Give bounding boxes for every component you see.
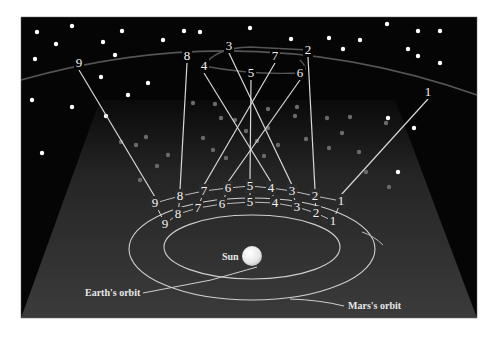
sky-position-8: 8	[184, 48, 191, 63]
mars-position-3: 3	[289, 183, 296, 198]
faint-star	[325, 116, 329, 120]
star	[416, 29, 420, 33]
star	[146, 81, 150, 85]
star	[161, 38, 165, 42]
sun	[242, 246, 262, 266]
faint-star	[364, 170, 368, 174]
earth-position-3: 3	[294, 199, 301, 214]
faint-star	[224, 156, 228, 160]
earth-position-4: 4	[272, 195, 279, 210]
faint-star	[384, 121, 388, 125]
star	[341, 47, 345, 51]
faint-star	[138, 178, 142, 182]
faint-star	[293, 114, 297, 118]
sun-label: Sun	[222, 251, 239, 262]
faint-star	[357, 150, 361, 154]
retrograde-motion-diagram: Sun Earth's orbit Mars's orbit 123456789…	[0, 0, 492, 344]
faint-star	[348, 115, 352, 119]
star	[198, 30, 202, 34]
mars-position-8: 8	[177, 188, 184, 203]
star	[358, 38, 362, 42]
earth-position-7: 7	[195, 200, 202, 215]
faint-star	[134, 143, 138, 147]
faint-star	[191, 101, 195, 105]
faint-star	[211, 148, 215, 152]
sky-position-4: 4	[201, 58, 208, 73]
mars-position-9: 9	[152, 195, 159, 210]
star	[248, 26, 252, 30]
star	[30, 98, 34, 102]
star	[35, 30, 39, 34]
sky-position-9: 9	[76, 55, 83, 70]
faint-star	[213, 102, 217, 106]
earth-position-6: 6	[219, 196, 226, 211]
star	[40, 151, 44, 155]
mars-position-4: 4	[268, 180, 275, 195]
star	[225, 12, 229, 16]
sky-position-2: 2	[305, 42, 312, 57]
earth-position-8: 8	[175, 206, 182, 221]
star	[113, 53, 117, 57]
faint-star	[387, 185, 391, 189]
mars-position-1: 1	[338, 193, 345, 208]
star	[70, 24, 74, 28]
sky-position-1: 1	[425, 84, 432, 99]
star	[126, 93, 130, 97]
earth-orbit-label: Earth's orbit	[85, 287, 141, 298]
star	[327, 36, 331, 40]
mars-position-7: 7	[201, 183, 208, 198]
faint-star	[155, 164, 159, 168]
star	[385, 22, 389, 26]
faint-star	[262, 154, 266, 158]
star	[54, 42, 58, 46]
faint-star	[340, 131, 344, 135]
star	[289, 37, 293, 41]
star	[406, 47, 410, 51]
sky-position-7: 7	[272, 48, 279, 63]
faint-star	[219, 116, 223, 120]
faint-star	[266, 107, 270, 111]
faint-star	[244, 129, 248, 133]
earth-position-5: 5	[247, 194, 254, 209]
sky-position-3: 3	[226, 38, 233, 53]
star	[182, 29, 186, 33]
mars-position-2: 2	[312, 188, 319, 203]
faint-star	[276, 143, 280, 147]
sky-position-6: 6	[297, 65, 304, 80]
earth-position-2: 2	[313, 205, 320, 220]
faint-star	[201, 136, 205, 140]
mars-orbit-label: Mars's orbit	[348, 300, 402, 311]
star	[386, 116, 390, 120]
star	[416, 54, 420, 58]
star	[101, 40, 105, 44]
faint-star	[295, 105, 299, 109]
mars-position-5: 5	[247, 178, 254, 193]
star	[396, 170, 400, 174]
faint-star	[166, 153, 170, 157]
sky-position-5: 5	[248, 65, 255, 80]
star	[33, 57, 37, 61]
faint-star	[304, 137, 308, 141]
mars-position-6: 6	[225, 180, 232, 195]
star	[99, 75, 103, 79]
diagram-canvas: Sun Earth's orbit Mars's orbit 123456789…	[0, 0, 492, 344]
faint-star	[144, 135, 148, 139]
earth-position-9: 9	[162, 216, 169, 231]
faint-star	[327, 146, 331, 150]
star	[412, 126, 416, 130]
star	[438, 61, 442, 65]
star	[120, 29, 124, 33]
star	[70, 105, 74, 109]
earth-position-1: 1	[330, 213, 337, 228]
star	[438, 29, 442, 33]
